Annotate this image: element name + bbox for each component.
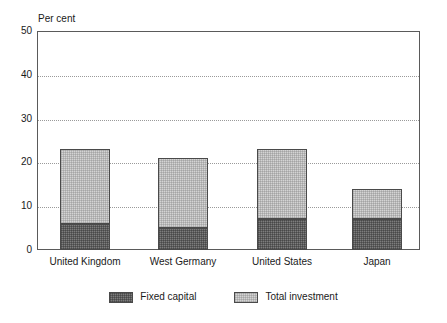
bar-segment-total-investment[interactable] xyxy=(257,149,307,219)
bar-segment-fixed-capital[interactable] xyxy=(352,219,402,250)
bar-group[interactable] xyxy=(257,149,307,250)
bar-group[interactable] xyxy=(158,158,208,250)
legend-swatch-icon xyxy=(109,292,133,303)
y-tick-label-40: 40 xyxy=(2,70,32,80)
y-tick-label-0: 0 xyxy=(2,245,32,255)
y-axis-unit-label: Per cent xyxy=(38,13,75,25)
legend-item[interactable]: Total investment xyxy=(234,291,337,303)
legend-item[interactable]: Fixed capital xyxy=(109,291,196,303)
legend-label: Fixed capital xyxy=(140,291,196,303)
x-tick-label-japan: Japan xyxy=(317,256,437,268)
bar-chart-figure: Per cent 01020304050 United KingdomWest … xyxy=(0,0,447,323)
bar-segment-total-investment[interactable] xyxy=(158,158,208,228)
bar-segment-total-investment[interactable] xyxy=(60,149,110,223)
bar-segment-fixed-capital[interactable] xyxy=(158,228,208,250)
bar-segment-fixed-capital[interactable] xyxy=(60,224,110,250)
bar-group[interactable] xyxy=(60,149,110,250)
bar-group[interactable] xyxy=(352,189,402,250)
bar-segment-total-investment[interactable] xyxy=(352,189,402,220)
legend-swatch-icon xyxy=(234,292,258,303)
y-tick-label-30: 30 xyxy=(2,114,32,124)
bars-layer xyxy=(37,31,420,250)
y-tick-label-20: 20 xyxy=(2,157,32,167)
legend-label: Total investment xyxy=(265,291,337,303)
y-tick-label-50: 50 xyxy=(2,26,32,36)
chart-legend: Fixed capitalTotal investment xyxy=(0,291,447,303)
y-tick-label-10: 10 xyxy=(2,201,32,211)
bar-segment-fixed-capital[interactable] xyxy=(257,219,307,250)
